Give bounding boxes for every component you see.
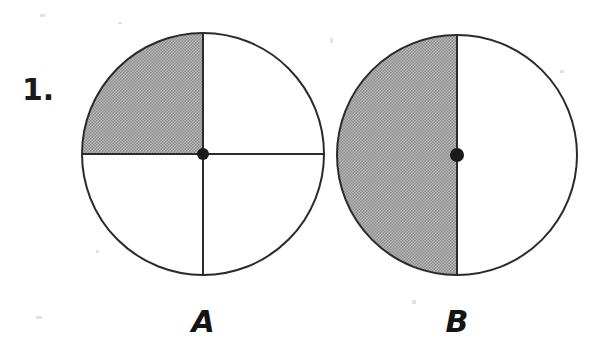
circle-b-caption: B xyxy=(446,304,469,339)
worksheet-figure: A B 1. xyxy=(0,0,606,348)
circle-b-center-dot xyxy=(450,148,464,162)
circle-a-caption: A xyxy=(189,304,214,339)
page-background xyxy=(0,0,606,348)
figure-canvas: A B 1. xyxy=(0,0,606,348)
circle-a-center-dot xyxy=(197,148,209,160)
problem-number: 1. xyxy=(22,72,54,107)
